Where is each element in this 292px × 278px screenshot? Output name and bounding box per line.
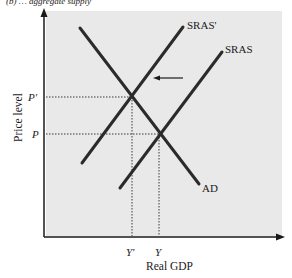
ad-as-diagram: (b) … aggregate supply SRAS' SRAS AD P' … bbox=[0, 0, 292, 278]
ad-label: AD bbox=[202, 182, 218, 194]
caption-fragment: (b) … aggregate supply bbox=[6, 0, 91, 6]
sras-label: SRAS bbox=[225, 43, 253, 55]
y-prime-tick: Y' bbox=[126, 246, 135, 258]
p-prime-tick: P' bbox=[27, 91, 38, 103]
y-axis-title: Price level bbox=[12, 93, 24, 142]
x-axis-title: Real GDP bbox=[146, 260, 193, 272]
y-tick: Y bbox=[155, 246, 163, 258]
sras-prime-label: SRAS' bbox=[187, 19, 217, 31]
p-tick: P bbox=[31, 128, 39, 140]
